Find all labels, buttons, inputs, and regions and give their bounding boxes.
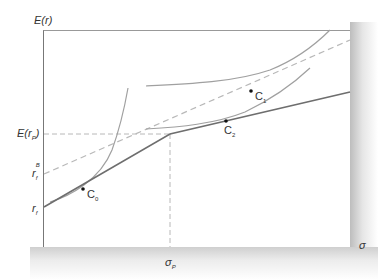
sigma-p-sub: P [172, 264, 176, 270]
diagram-canvas: E(r) σ E(rP) rBf rf σP C0 C1 C2 [0, 0, 378, 280]
point-c1 [249, 89, 253, 93]
rf-label: rf [32, 203, 37, 216]
c0-main: C [87, 188, 95, 200]
e-rp-main: E(r [17, 127, 32, 139]
e-rp-label: E(rP) [17, 128, 39, 141]
rf-sub: f [36, 210, 38, 216]
c0-sub: 0 [95, 196, 98, 202]
c2-label: C2 [224, 125, 235, 138]
sigma-p-main: σ [165, 256, 172, 268]
y-axis-label: E(r) [34, 15, 52, 26]
borrowing-rate-dashed-line [44, 40, 350, 174]
plot-svg [0, 0, 378, 280]
rf-b-sup: B [36, 162, 40, 168]
indifference-curve-c0 [50, 88, 128, 202]
x-axis-label: σ [359, 240, 366, 251]
c0-label: C0 [87, 189, 98, 202]
c1-sub: 1 [263, 98, 266, 104]
c2-main: C [224, 124, 232, 136]
rf-b-sub: f [36, 175, 38, 181]
c1-label: C1 [255, 91, 266, 104]
sigma-p-label: σP [165, 257, 176, 270]
point-c0 [81, 187, 85, 191]
point-c2 [224, 119, 228, 123]
c1-main: C [255, 90, 263, 102]
rf-b-label: rBf [32, 168, 37, 181]
c2-sub: 2 [232, 132, 235, 138]
indifference-curve-c1 [146, 30, 330, 86]
e-rp-close: ) [36, 127, 40, 139]
